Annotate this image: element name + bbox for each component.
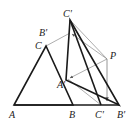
vertex-label-A: A [9,110,15,120]
diagram-canvas [0,0,133,130]
geometry-diagram: A B C A' B' C' C' B' P [0,0,133,130]
vertex-label-C-prime-apex: C' [63,9,72,19]
vertex-label-C: C [35,41,42,51]
segment-Cprime-to-Cprime-foot [70,20,101,105]
triangle-ABC [14,46,73,105]
vertex-label-C-prime-base: C' [95,110,104,120]
vertex-label-B: B [69,110,75,120]
vertex-label-A-prime: A' [57,80,65,90]
vertex-label-P: P [110,51,116,61]
vertex-label-B-prime-base: B' [117,110,125,120]
guide-quad-edge-icon [46,33,70,46]
triangles-group [14,20,119,105]
vertex-label-B-prime: B' [39,28,47,38]
